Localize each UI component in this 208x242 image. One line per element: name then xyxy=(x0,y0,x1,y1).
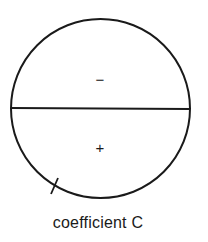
horizontal-divider xyxy=(11,108,190,109)
plus-sign-label: + xyxy=(90,140,110,155)
minus-sign-label: − xyxy=(90,72,110,87)
diagram-caption: coefficient C xyxy=(0,214,196,232)
coefficient-circle-diagram xyxy=(0,0,208,242)
